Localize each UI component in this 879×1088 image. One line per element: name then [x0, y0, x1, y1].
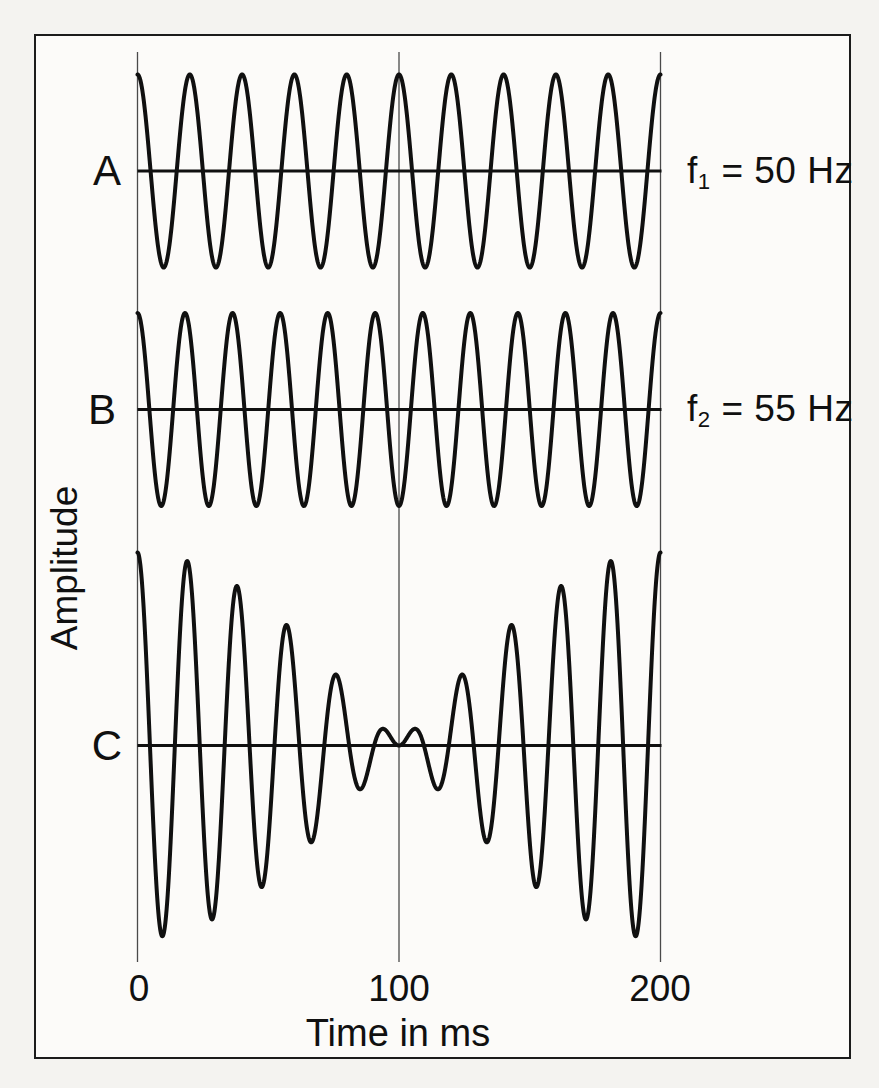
- panel-a-letter: A: [93, 150, 121, 192]
- x-tick-0: 0: [129, 970, 150, 1007]
- freq-f1-subscript: 1: [698, 169, 711, 194]
- x-tick-200: 200: [629, 970, 691, 1007]
- y-axis-label: Amplitude: [46, 486, 83, 651]
- freq-f1-symbol: f: [687, 150, 698, 191]
- freq-f1-value: = 50 Hz: [711, 150, 854, 191]
- freq-f2-subscript: 2: [698, 407, 711, 432]
- panel-b-letter: B: [88, 389, 116, 431]
- panel-c-letter: C: [92, 725, 122, 767]
- freq-label-f2: f2 = 55 Hz: [687, 390, 853, 427]
- figure-page: A B C f1 = 50 Hz f2 = 55 Hz Amplitude 0 …: [0, 0, 879, 1088]
- x-tick-100: 100: [368, 970, 430, 1007]
- x-axis-label: Time in ms: [306, 1014, 490, 1052]
- freq-f2-value: = 55 Hz: [711, 388, 854, 429]
- freq-label-f1: f1 = 50 Hz: [687, 152, 853, 189]
- freq-f2-symbol: f: [687, 388, 698, 429]
